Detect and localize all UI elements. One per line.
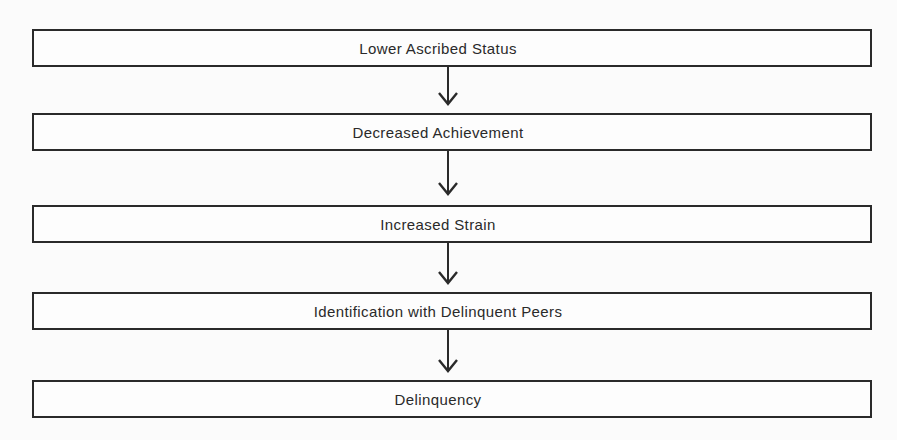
node-label: Delinquency bbox=[395, 391, 482, 408]
node-lower-ascribed-status: Lower Ascribed Status bbox=[32, 29, 872, 67]
node-delinquency: Delinquency bbox=[32, 380, 872, 418]
arrow-down-icon bbox=[436, 151, 460, 205]
node-increased-strain: Increased Strain bbox=[32, 205, 872, 243]
node-label: Increased Strain bbox=[380, 216, 496, 233]
arrow-down-icon bbox=[436, 243, 460, 293]
node-identification-with-delinquent-peers: Identification with Delinquent Peers bbox=[32, 292, 872, 330]
arrow-down-icon bbox=[436, 330, 460, 381]
node-label: Identification with Delinquent Peers bbox=[314, 303, 563, 320]
node-label: Decreased Achievement bbox=[353, 124, 524, 141]
node-decreased-achievement: Decreased Achievement bbox=[32, 113, 872, 151]
node-label: Lower Ascribed Status bbox=[359, 40, 517, 57]
arrow-down-icon bbox=[436, 67, 460, 113]
